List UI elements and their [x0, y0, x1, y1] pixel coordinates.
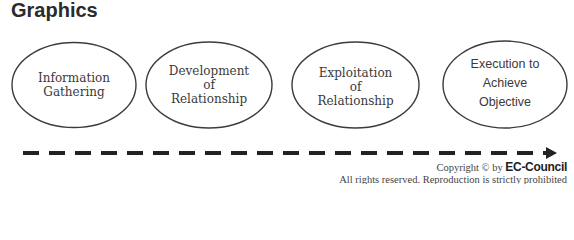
stage-2-line-2: of — [203, 78, 215, 92]
rights-notice: All rights reserved. Reproduction is str… — [339, 174, 567, 184]
stage-3-line-2: of — [350, 80, 362, 94]
stage-3-line-1: Exploitation — [319, 66, 393, 80]
copyright-notice: Copyright © by EC-Council All rights res… — [339, 161, 567, 184]
stage-2-line-3: Relationship — [171, 92, 247, 106]
copyright-line: Copyright © by EC-Council — [339, 161, 567, 174]
timeline-arrowhead-icon — [546, 147, 557, 159]
stage-3-line-3: Relationship — [317, 94, 393, 108]
stage-4-line-1: Execution to — [471, 55, 540, 74]
stage-label-1: Information Gathering — [12, 43, 136, 127]
stage-1-line-2: Gathering — [43, 85, 104, 99]
copyright-prefix: Copyright © by — [436, 162, 502, 173]
brand-logo-text: EC-Council — [505, 160, 567, 174]
stage-label-2: Development of Relationship — [146, 42, 272, 128]
stage-2-line-1: Development — [169, 64, 249, 78]
stage-4-line-2: Achieve — [483, 74, 527, 93]
stage-4-line-3: Objective — [479, 93, 531, 112]
stage-label-3: Exploitation of Relationship — [292, 44, 419, 130]
stage-label-4: Execution to Achieve Objective — [443, 40, 567, 126]
stage-1-line-1: Information — [38, 71, 110, 85]
